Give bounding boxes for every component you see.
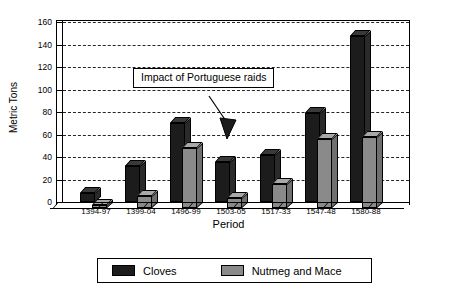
y-axis-tick <box>56 112 62 113</box>
y-axis-tick-label: 20 <box>26 175 52 185</box>
x-axis-tick-label: 1580-88 <box>338 207 394 216</box>
y-axis-tick <box>56 22 62 23</box>
legend-label-nutmeg: Nutmeg and Mace <box>252 265 342 277</box>
bar-side <box>377 132 383 208</box>
y-axis-tick <box>56 157 62 158</box>
y-axis-tick <box>56 67 62 68</box>
y-axis-tick <box>56 135 62 136</box>
legend-label-cloves: Cloves <box>143 265 177 277</box>
legend: Cloves Nutmeg and Mace <box>97 258 372 283</box>
legend-swatch-cloves-icon <box>112 265 135 276</box>
bar-nutmeg-1496-99 <box>182 148 197 208</box>
y-axis-tick-label: 100 <box>26 85 52 95</box>
y-axis-tick-label: 160 <box>26 17 52 27</box>
y-axis-tick <box>56 45 62 46</box>
bar-face <box>80 193 95 202</box>
y-axis-tick <box>56 90 62 91</box>
y-axis-tick-label: 140 <box>26 40 52 50</box>
y-axis-tick-label: 60 <box>26 130 52 140</box>
bar-chart: Metric Tons 020406080100120140160 1394-9… <box>0 0 457 303</box>
annotation-arrow-icon <box>206 94 246 142</box>
legend-item-cloves: Cloves <box>112 265 177 277</box>
annotation-callout: Impact of Portuguese raids <box>133 68 274 88</box>
y-axis-tick-label: 120 <box>26 62 52 72</box>
gridline <box>63 22 409 23</box>
bar-nutmeg-1547-48 <box>317 139 332 208</box>
bar-cloves-1394-97 <box>80 193 95 202</box>
x-axis-title: Period <box>0 218 457 230</box>
y-axis-tick-label: 80 <box>26 107 52 117</box>
bar-face <box>182 148 197 208</box>
bar-side <box>332 134 338 208</box>
y-axis-tick <box>56 180 62 181</box>
y-axis-tick-label: 40 <box>26 152 52 162</box>
y-axis-title: Metric Tons <box>8 58 24 158</box>
bar-face <box>362 137 377 208</box>
bar-nutmeg-1580-88 <box>362 137 377 208</box>
legend-swatch-nutmeg-icon <box>221 265 244 276</box>
bar-face <box>317 139 332 208</box>
y-axis-tick-label: 0 <box>26 197 52 207</box>
legend-item-nutmeg: Nutmeg and Mace <box>221 265 342 277</box>
bar-side <box>197 143 203 208</box>
